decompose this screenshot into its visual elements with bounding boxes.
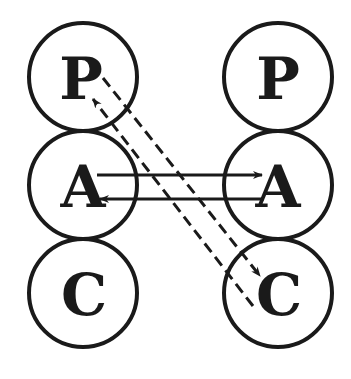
- right-parent-label: P: [256, 45, 300, 113]
- right-child-state: C: [224, 239, 332, 347]
- left-adult-state: A: [29, 131, 137, 239]
- right-adult-label: A: [254, 153, 301, 221]
- right-person-ego-states: P A C: [224, 23, 332, 347]
- right-adult-state: A: [224, 131, 332, 239]
- parent-to-child-dashed-arrow: [103, 78, 260, 276]
- ego-state-diagram: P A C P A C: [0, 0, 351, 379]
- left-child-label: C: [61, 261, 107, 329]
- left-adult-label: A: [59, 153, 106, 221]
- left-parent-state: P: [29, 23, 137, 131]
- right-parent-state: P: [224, 23, 332, 131]
- right-child-label: C: [256, 261, 302, 329]
- left-child-state: C: [29, 239, 137, 347]
- left-person-ego-states: P A C: [29, 23, 137, 347]
